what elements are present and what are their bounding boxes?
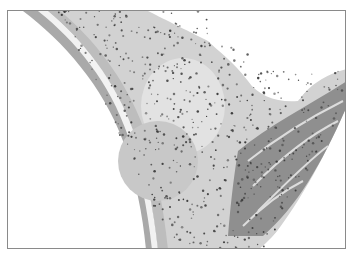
micrograph-frame [7,10,346,249]
cellular-zone [118,121,198,201]
tissue-micrograph [8,11,346,249]
